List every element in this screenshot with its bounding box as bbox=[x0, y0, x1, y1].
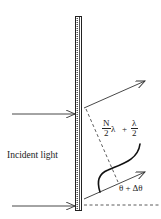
angle-label: θ + Δθ bbox=[119, 183, 143, 193]
fraction-lambda-over-2: λ 2 bbox=[131, 119, 138, 138]
fraction-n-over-2: N 2 bbox=[102, 119, 111, 138]
grating bbox=[76, 17, 82, 211]
fraction-denominator: 2 bbox=[103, 129, 110, 138]
fraction-numerator: λ bbox=[131, 119, 137, 128]
lambda-symbol: λ bbox=[111, 124, 115, 134]
incident-light-label: Incident light bbox=[7, 150, 58, 160]
fraction-numerator: N bbox=[102, 119, 111, 128]
plus-operator: + bbox=[122, 124, 127, 134]
fraction-denominator: 2 bbox=[131, 129, 138, 138]
diffracted-ray-top bbox=[84, 81, 145, 108]
